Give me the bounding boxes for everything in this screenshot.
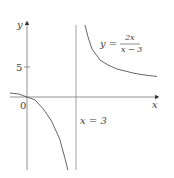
- y-axis-label: y: [16, 19, 23, 30]
- equation-denominator: x − 3: [121, 45, 142, 54]
- asymptote-label: x = 3: [80, 115, 107, 126]
- equation-lhs: y =: [99, 38, 117, 49]
- origin-label: 0: [20, 100, 26, 111]
- equation-numerator: 2x: [124, 33, 135, 42]
- curve-left-branch: [10, 93, 68, 170]
- x-axis-label: x: [152, 99, 158, 110]
- y-tick-label-5: 5: [16, 62, 22, 73]
- graph-canvas: y x 0 5 x = 3 y = 2x x − 3: [0, 0, 174, 178]
